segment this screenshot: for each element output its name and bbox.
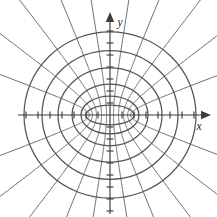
figure-container: x y: [0, 0, 217, 217]
x-axis-label: x: [195, 120, 202, 132]
plot-background: [0, 0, 217, 217]
y-axis-label: y: [116, 16, 123, 29]
confocal-conics-plot: x y: [0, 0, 217, 217]
